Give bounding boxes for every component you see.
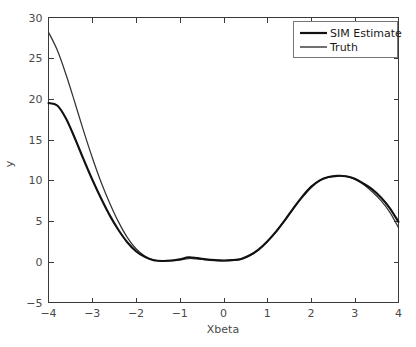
legend[interactable]: SIM Estimate Truth	[294, 22, 403, 58]
legend-label-sim-estimate: SIM Estimate	[330, 27, 402, 40]
x-axis-label: Xbeta	[207, 323, 239, 336]
x-tick-label: −4	[40, 307, 56, 320]
x-tick-label: −3	[84, 307, 100, 320]
y-tick-label: 30	[29, 12, 43, 25]
x-tick-label: 2	[308, 307, 315, 320]
figure-container: −4−3−2−101234 −5051015202530 SIM Estimat…	[0, 0, 416, 347]
y-axis-label: y	[3, 160, 16, 167]
legend-label-truth: Truth	[329, 41, 358, 54]
x-tick-label: 1	[264, 307, 271, 320]
y-tick-label: 10	[29, 174, 43, 187]
y-tick-label: 0	[36, 256, 43, 269]
y-tick-label: 20	[29, 93, 43, 106]
x-tick-label: −1	[172, 307, 188, 320]
x-tick-label: −2	[128, 307, 144, 320]
x-tick-label: 4	[395, 307, 402, 320]
y-tick-label: −5	[26, 297, 42, 310]
x-tick-label: 3	[351, 307, 358, 320]
y-tick-label: 25	[29, 52, 43, 65]
chart-plot: −4−3−2−101234 −5051015202530 SIM Estimat…	[0, 0, 416, 347]
y-tick-label: 5	[36, 215, 43, 228]
x-tick-label: 0	[220, 307, 227, 320]
y-tick-label: 15	[29, 134, 43, 147]
